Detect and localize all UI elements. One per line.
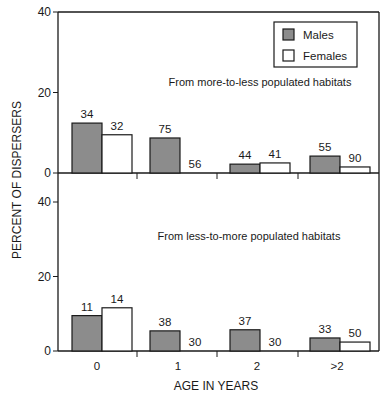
y-tick-label: 0: [44, 344, 51, 358]
bar-value-label: 34: [81, 108, 94, 120]
y-tick-label: 20: [38, 270, 52, 284]
bar-value-label: 55: [319, 141, 332, 153]
x-category-label: 0: [94, 360, 100, 372]
female-bar: [102, 135, 132, 173]
y-tick-label: 0: [44, 166, 51, 180]
legend-swatch-females: [283, 50, 294, 61]
y-tick-label: 40: [38, 5, 52, 19]
bar-value-label: 90: [349, 152, 362, 164]
female-bar: [340, 167, 370, 173]
bar-value-label: 33: [319, 323, 332, 335]
bar-value-label: 38: [159, 316, 172, 328]
male-bar: [150, 138, 180, 173]
legend-swatch-males: [283, 29, 294, 40]
male-bar: [72, 123, 102, 173]
bar-value-label: 30: [189, 336, 202, 348]
bar-value-label: 11: [81, 301, 93, 313]
bar-chart: 020403475445532564190From more-to-less p…: [0, 0, 385, 399]
x-category-label: >2: [330, 360, 343, 372]
bar-value-label: 32: [111, 120, 124, 132]
x-category-label: 2: [254, 360, 260, 372]
bar-value-label: 56: [189, 158, 202, 170]
bar-value-label: 41: [269, 148, 282, 160]
female-bar: [340, 342, 370, 351]
bar-value-label: 75: [159, 123, 172, 135]
panel-title: From more-to-less populated habitats: [169, 76, 352, 88]
y-tick-label: 20: [38, 86, 52, 100]
y-axis-label: PERCENT OF DISPERSERS: [10, 101, 24, 259]
male-bar: [310, 338, 340, 351]
male-bar: [230, 164, 260, 173]
bar-value-label: 14: [111, 293, 124, 305]
bar-value-label: 50: [349, 327, 362, 339]
bar-value-label: 44: [239, 149, 252, 161]
bar-value-label: 30: [269, 336, 282, 348]
legend-label-males: Males: [303, 29, 334, 41]
bar-value-label: 37: [239, 315, 252, 327]
y-tick-label: 40: [38, 195, 52, 209]
male-bar: [72, 316, 102, 351]
legend-label-females: Females: [303, 50, 347, 62]
male-bar: [230, 330, 260, 351]
x-category-label: 1: [175, 360, 181, 372]
male-bar: [150, 331, 180, 351]
male-bar: [310, 156, 340, 173]
female-bar: [102, 308, 132, 351]
panel-title: From less-to-more populated habitats: [158, 230, 341, 242]
female-bar: [260, 163, 290, 173]
x-axis-label: AGE IN YEARS: [174, 379, 258, 393]
